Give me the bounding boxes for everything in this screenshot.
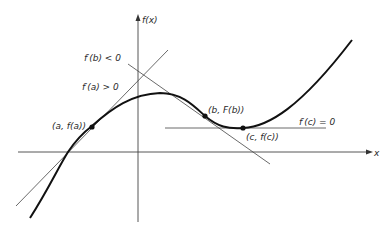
derivative-diagram: f(x) x f′(b) < 0 f′(a) > 0 f′(c) = 0 (a,… [0,0,380,234]
y-axis-arrow-icon [136,14,141,21]
slope-c-label: f′(c) = 0 [299,117,335,127]
point-a [89,124,94,129]
x-axis-arrow-icon [366,150,373,155]
point-a-label: (a, f(a)) [52,121,86,131]
slope-a-label: f′(a) > 0 [82,82,119,92]
point-b [202,113,207,118]
point-b-label: (b, F(b)) [208,105,244,115]
point-c [240,125,245,130]
x-axis-label: x [373,148,380,158]
tangent-line-b [128,64,270,164]
point-c-label: (c, f(c)) [246,132,279,142]
slope-b-label: f′(b) < 0 [84,53,121,63]
y-axis-label: f(x) [142,15,158,25]
